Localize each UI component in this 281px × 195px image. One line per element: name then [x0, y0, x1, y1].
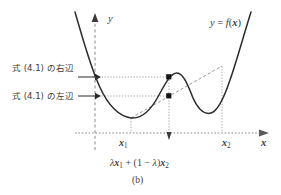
curve-label-leader — [213, 36, 233, 70]
marker-chord-point — [166, 93, 171, 98]
y-axis-arrowhead — [92, 13, 99, 22]
annotation-lhs-label: 式 (4.1) の左辺 — [12, 92, 74, 101]
tick-label-x2-subscript: 2 — [227, 142, 231, 150]
lhs-arrowhead — [95, 93, 101, 99]
annotation-rhs-label: 式 (4.1) の右辺 — [12, 64, 74, 73]
combo-plus: + — [125, 157, 131, 168]
tick-label-x1: x1 — [119, 138, 128, 150]
x-axis-label: x — [261, 138, 266, 149]
y-axis-label: y — [108, 14, 113, 25]
convex-combination-label: λx1 + (1 − λ)x2 — [110, 158, 169, 170]
x-axis-arrowhead — [259, 130, 269, 137]
marker-curve-point — [166, 74, 171, 79]
tick-label-x1-subscript: 1 — [124, 142, 128, 150]
curve-label-y: y — [210, 17, 215, 28]
figure-caption: (b) — [132, 176, 143, 186]
tick-label-x2: x2 — [222, 138, 231, 150]
rhs-arrowhead — [95, 74, 101, 80]
curve-label-equals: = — [217, 17, 226, 28]
curve-label: y = f(x) — [210, 18, 241, 29]
convexity-figure: 式 (4.1) の右辺 式 (4.1) の左辺 y = f(x) y x x1 … — [0, 0, 281, 195]
curve-label-paren-close: ) — [238, 17, 242, 28]
combo-minus: − — [144, 157, 150, 168]
combo-one: 1 — [137, 157, 142, 168]
combo-x1-subscript: 1 — [119, 162, 123, 170]
combination-arrowhead — [166, 132, 171, 140]
combo-x2-subscript: 2 — [165, 162, 169, 170]
chord-line — [131, 66, 222, 118]
